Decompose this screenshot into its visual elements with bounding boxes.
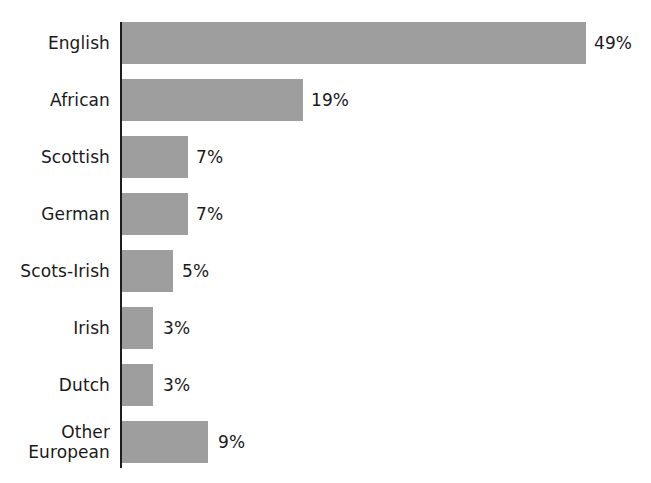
bar bbox=[122, 136, 188, 178]
category-label: Scots-Irish bbox=[20, 250, 110, 292]
value-label: 5% bbox=[182, 250, 209, 292]
category-label: African bbox=[50, 79, 110, 121]
value-label: 9% bbox=[218, 421, 245, 463]
bar-row: Scots-Irish 5% bbox=[0, 250, 651, 292]
bar-row: Dutch 3% bbox=[0, 364, 651, 406]
bar-chart: English 49% African 19% Scottish 7% Germ… bbox=[0, 0, 651, 483]
value-label: 7% bbox=[196, 193, 223, 235]
bar bbox=[122, 79, 303, 121]
category-label: Irish bbox=[73, 307, 110, 349]
category-label: German bbox=[41, 193, 110, 235]
category-label: Dutch bbox=[59, 364, 110, 406]
category-label: Other European bbox=[28, 421, 110, 463]
bar-row: Irish 3% bbox=[0, 307, 651, 349]
bar-row: English 49% bbox=[0, 22, 651, 64]
plot-area: English 49% African 19% Scottish 7% Germ… bbox=[0, 22, 651, 468]
value-label: 7% bbox=[196, 136, 223, 178]
bar bbox=[122, 250, 173, 292]
category-label: English bbox=[48, 22, 110, 64]
value-label: 49% bbox=[594, 22, 632, 64]
bar-row: Other European 9% bbox=[0, 421, 651, 463]
bar-row: German 7% bbox=[0, 193, 651, 235]
bar bbox=[122, 421, 208, 463]
category-label: Scottish bbox=[41, 136, 110, 178]
bar bbox=[122, 193, 188, 235]
bar bbox=[122, 307, 153, 349]
value-label: 3% bbox=[163, 307, 190, 349]
value-label: 3% bbox=[163, 364, 190, 406]
bar-row: Scottish 7% bbox=[0, 136, 651, 178]
value-label: 19% bbox=[311, 79, 349, 121]
bar bbox=[122, 364, 153, 406]
bar bbox=[122, 22, 586, 64]
bar-row: African 19% bbox=[0, 79, 651, 121]
